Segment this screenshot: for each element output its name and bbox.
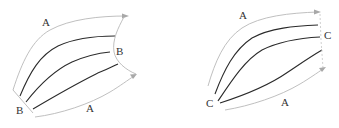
left-bottom-boundary-curve xyxy=(35,76,134,117)
right-streamline-2 xyxy=(218,37,320,101)
left-label-top-a: A xyxy=(42,16,50,28)
right-right-boundary-line xyxy=(320,14,323,68)
right-label-top-a: A xyxy=(239,9,247,21)
left-streamline-3 xyxy=(33,64,118,109)
right-label-bottom-a: A xyxy=(281,96,289,108)
left-streamline-1 xyxy=(20,36,115,96)
left-label-bottom-a: A xyxy=(86,102,94,114)
left-top-boundary-curve xyxy=(13,16,126,90)
left-streamline-2 xyxy=(26,52,110,102)
right-top-arrowhead-icon xyxy=(314,10,321,15)
diagram-canvas: A B B A A C C A xyxy=(0,0,339,128)
left-panel: A B B A xyxy=(13,14,137,118)
right-label-right-c: C xyxy=(324,29,331,41)
left-label-right-b: B xyxy=(116,45,123,57)
right-panel: A C C A xyxy=(206,9,331,110)
right-label-corner-c: C xyxy=(206,97,213,109)
left-top-arrowhead-icon xyxy=(122,14,129,19)
left-label-corner-b: B xyxy=(16,104,23,116)
right-bottom-boundary-curve xyxy=(225,69,323,110)
